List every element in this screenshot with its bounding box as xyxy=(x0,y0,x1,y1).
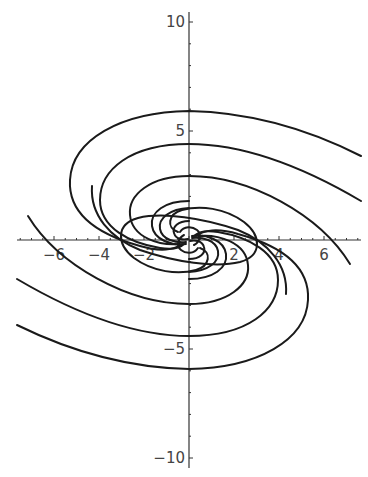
y-tick-label: 10 xyxy=(166,13,185,31)
y-tick-label: 5 xyxy=(175,122,185,140)
y-tick-label: −5 xyxy=(163,340,185,358)
phase-portrait-plot: −6−4−2246 −10−5510 xyxy=(0,0,368,477)
x-tick-label: 2 xyxy=(229,246,239,264)
y-tick-label: −10 xyxy=(153,449,185,467)
x-tick-label: 6 xyxy=(319,246,329,264)
x-tick-label: −4 xyxy=(88,246,110,264)
